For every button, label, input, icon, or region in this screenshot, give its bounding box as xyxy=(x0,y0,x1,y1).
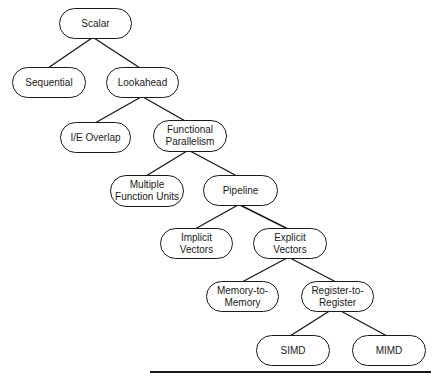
node-ie-overlap: I/E Overlap xyxy=(60,122,131,153)
edge-lookahead-functional-parallelism xyxy=(143,97,187,122)
edge-scalar-sequential xyxy=(48,38,92,68)
node-multiple-function-units: Multiple Function Units xyxy=(110,175,184,207)
node-register-to-register: Register-to- Register xyxy=(301,281,374,312)
edge-register-to-register-mimd xyxy=(339,310,387,336)
edge-register-to-register-simd xyxy=(290,310,331,336)
node-lookahead: Lookahead xyxy=(106,67,179,98)
edge-explicit-vectors-memory-to-memory xyxy=(242,258,287,282)
edge-scalar-lookahead xyxy=(94,38,140,68)
node-explicit-vectors: Explicit Vectors xyxy=(253,228,327,259)
node-sequential: Sequential xyxy=(12,67,86,98)
node-functional-parallelism: Functional Parallelism xyxy=(153,120,227,152)
edge-functional-parallelism-pipeline xyxy=(190,151,237,176)
edge-pipeline-explicit-vectors xyxy=(240,205,288,229)
node-simd: SIMD xyxy=(256,335,330,366)
node-mimd: MIMD xyxy=(352,335,426,366)
edge-lookahead-ie-overlap xyxy=(95,97,141,123)
node-scalar: Scalar xyxy=(59,8,132,39)
node-implicit-vectors: Implicit Vectors xyxy=(160,228,233,259)
edge-pipeline-implicit-vectors xyxy=(195,205,238,229)
node-memory-to-memory: Memory-to- Memory xyxy=(206,281,279,312)
node-pipeline: Pipeline xyxy=(203,175,278,206)
edge-explicit-vectors-register-to-register xyxy=(290,258,336,282)
bottom-rule xyxy=(150,371,431,373)
edge-functional-parallelism-multiple-function-units xyxy=(146,151,187,176)
